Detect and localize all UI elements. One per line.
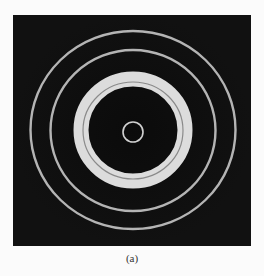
rings-graphic	[13, 15, 251, 246]
diffraction-pattern-image	[13, 15, 251, 246]
figure: (a)	[0, 0, 264, 276]
figure-caption: (a)	[0, 252, 264, 264]
